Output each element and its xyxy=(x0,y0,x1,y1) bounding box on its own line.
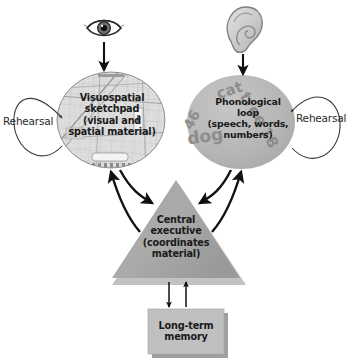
ear-icon xyxy=(227,7,262,52)
eye-icon xyxy=(84,21,124,36)
diagram-canvas: cat46treedog18 xyxy=(0,0,352,360)
rehearsal-label-left: Rehearsal xyxy=(3,115,53,127)
visuospatial-sketchpad-node xyxy=(50,70,175,175)
rehearsal-loop-right xyxy=(291,97,340,158)
arrow-sketchpad-to-executive xyxy=(120,170,152,203)
rehearsal-label-right: Rehearsal xyxy=(296,112,346,124)
diagram-graphics: cat46treedog18 xyxy=(0,0,352,360)
long-term-memory-node xyxy=(148,309,228,358)
arrow-executive-to-loop xyxy=(212,172,241,232)
central-executive-node xyxy=(112,180,246,285)
rehearsal-loop-left xyxy=(14,99,62,156)
arrow-loop-to-executive xyxy=(200,170,231,203)
phonological-loop-node: cat46treedog18 xyxy=(180,75,295,169)
